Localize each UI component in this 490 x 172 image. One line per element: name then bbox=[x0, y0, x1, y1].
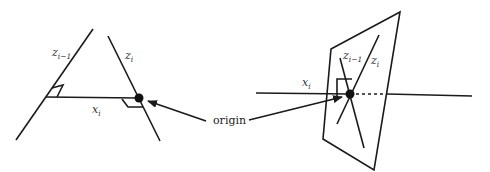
origin-label: origin bbox=[213, 114, 246, 127]
z-curr-axis-line bbox=[108, 36, 160, 141]
right-angle-mark-left bbox=[52, 85, 63, 97]
arrow-to-right-origin bbox=[249, 97, 342, 120]
label-z-prev: zi−1 bbox=[342, 49, 362, 64]
origin-dot bbox=[346, 90, 355, 99]
z-prev-axis-line bbox=[340, 58, 364, 148]
label-z-prev: zi−1 bbox=[51, 46, 71, 61]
right-figure: zi−1 zi xi bbox=[256, 12, 472, 170]
x-common-normal-line bbox=[46, 97, 139, 98]
origin-annotation: origin bbox=[148, 97, 342, 127]
label-z-curr: zi bbox=[124, 49, 134, 64]
origin-dot bbox=[135, 94, 144, 103]
x-axis-line-front bbox=[256, 93, 350, 94]
label-x-curr: xi bbox=[302, 76, 311, 91]
arrow-to-left-origin bbox=[148, 101, 206, 121]
left-figure: zi−1 zi xi bbox=[16, 29, 160, 141]
label-x-curr: xi bbox=[92, 103, 101, 118]
label-z-curr: zi bbox=[370, 54, 380, 69]
plane-quad bbox=[323, 12, 400, 170]
dh-frame-diagram: zi−1 zi xi origin zi−1 zi xi bbox=[0, 0, 490, 172]
x-axis-line-back bbox=[387, 94, 472, 96]
